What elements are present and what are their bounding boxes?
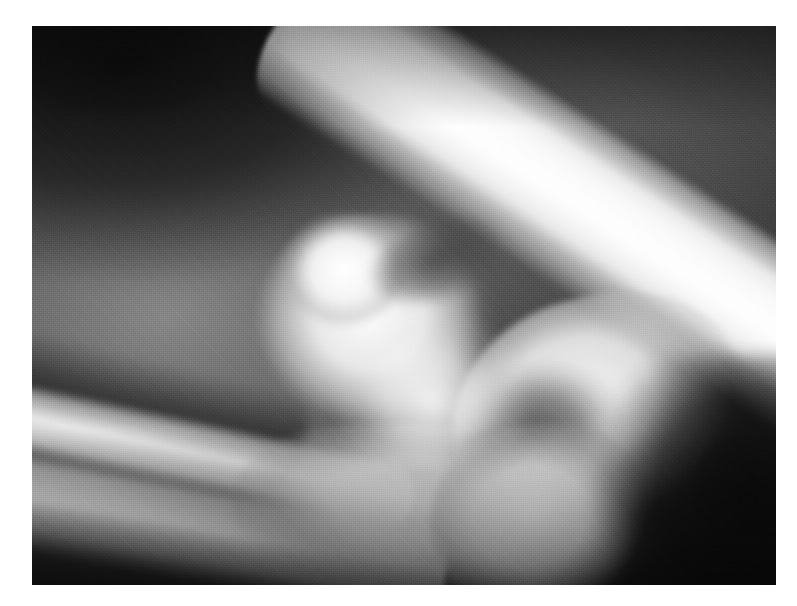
page-canvas: r e l xyxy=(0,0,797,606)
xray-radiograph-image xyxy=(32,26,776,585)
joint-space-highlight xyxy=(332,306,532,496)
right-dark-field xyxy=(592,356,776,585)
margin-text-fragments: r e l xyxy=(0,24,14,104)
